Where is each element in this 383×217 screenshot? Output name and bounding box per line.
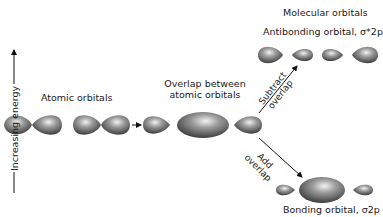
overlap-orbitals (143, 112, 262, 138)
antibonding-orbital (258, 47, 378, 64)
antibonding-label: Antibonding orbital, σ*2p (263, 27, 383, 38)
energy-axis-label: Increasing energy (9, 86, 20, 171)
overlap-label-line2: atomic orbitals (160, 90, 250, 101)
atomic-orbital-2 (73, 115, 130, 135)
bonding-label: Bonding orbital, σ2p (283, 205, 380, 216)
atomic-orbitals-label: Atomic orbitals (41, 93, 113, 104)
overlap-label: Overlap between atomic orbitals (160, 79, 250, 101)
molecular-orbitals-title: Molecular orbitals (283, 8, 368, 19)
bonding-orbital (276, 177, 373, 203)
